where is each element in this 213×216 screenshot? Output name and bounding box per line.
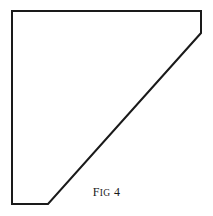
- caption-lead-letter: F: [93, 185, 100, 199]
- figure-caption: FIG 4: [0, 185, 213, 200]
- pentagon-shape: [12, 11, 201, 204]
- caption-small-caps: IG: [100, 188, 111, 198]
- caption-figure-number: 4: [114, 185, 120, 199]
- figure-canvas: FIG 4: [0, 0, 213, 216]
- figure-drawing: [0, 0, 213, 216]
